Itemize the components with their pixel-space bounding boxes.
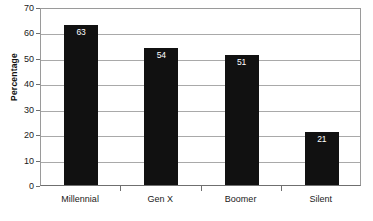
bar-value-label: 63 <box>64 28 98 37</box>
x-axis-category-label: Boomer <box>201 194 281 204</box>
bar-value-label: 51 <box>225 58 259 67</box>
bar[interactable]: 51 <box>225 55 259 185</box>
y-axis-tick-mark <box>36 186 40 187</box>
y-axis-tick-label: 60 <box>8 29 34 38</box>
plot-area: 63545121 <box>40 8 361 186</box>
y-axis-tick-label: 30 <box>8 106 34 115</box>
bar[interactable]: 63 <box>64 25 98 185</box>
y-axis-tick-mark <box>36 110 40 111</box>
y-axis-tick-mark <box>36 84 40 85</box>
x-axis-tick-mark <box>281 186 282 191</box>
y-axis-tick-label: 0 <box>8 182 34 191</box>
y-axis-tick-label: 70 <box>8 4 34 13</box>
y-axis-tick-mark <box>36 135 40 136</box>
y-axis-tick-mark <box>36 59 40 60</box>
x-axis-category-label: Millennial <box>40 194 120 204</box>
bar-value-label: 21 <box>305 135 339 144</box>
x-axis-tick-mark <box>201 186 202 191</box>
y-axis-tick-label: 50 <box>8 55 34 64</box>
x-axis-category-label: Gen X <box>120 194 200 204</box>
y-axis-tick-mark <box>36 161 40 162</box>
y-axis-tick-label: 40 <box>8 80 34 89</box>
y-axis-tick-label: 10 <box>8 157 34 166</box>
bar[interactable]: 54 <box>144 48 178 185</box>
bar-value-label: 54 <box>144 51 178 60</box>
y-axis-tick-labels: 706050403020100 <box>6 0 34 221</box>
bar[interactable]: 21 <box>305 132 339 185</box>
x-axis-category-label: Silent <box>281 194 361 204</box>
bar-chart: Percentage 706050403020100 63545121 Mill… <box>0 0 373 221</box>
y-axis-tick-mark <box>36 33 40 34</box>
x-axis-tick-mark <box>120 186 121 191</box>
y-axis-tick-mark <box>36 8 40 9</box>
y-axis-tick-label: 20 <box>8 131 34 140</box>
